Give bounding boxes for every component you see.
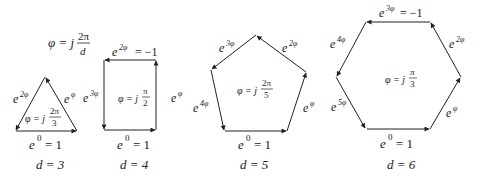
svg-text:5φ: 5φ	[338, 98, 347, 107]
phi-value: φ = j	[25, 113, 45, 124]
svg-text:e: e	[449, 37, 455, 51]
formula-denominator: d	[80, 45, 86, 57]
svg-text:2π: 2π	[262, 78, 272, 88]
svg-text:φ: φ	[453, 104, 458, 113]
phi-value: φ = j	[118, 93, 138, 104]
svg-text:e: e	[303, 101, 309, 115]
edge-label-ephi: e	[64, 92, 70, 106]
svg-text:= −1: = −1	[400, 6, 423, 20]
formula-lhs: φ = j	[48, 35, 74, 50]
svg-text:φ: φ	[178, 89, 183, 98]
svg-text:2: 2	[143, 98, 148, 108]
svg-text:e: e	[83, 91, 89, 105]
svg-text:e: e	[193, 101, 199, 115]
svg-text:2π: 2π	[50, 106, 60, 116]
svg-text:4φ: 4φ	[200, 99, 209, 108]
general-phi-formula: φ = j 2π d	[48, 30, 90, 57]
svg-text:e: e	[446, 106, 452, 120]
svg-text:2φ: 2φ	[289, 39, 298, 48]
svg-text:e: e	[117, 137, 123, 152]
formula-numerator: 2π	[78, 30, 90, 42]
svg-text:e: e	[29, 137, 35, 152]
svg-text:e: e	[171, 91, 177, 105]
svg-text:3φ: 3φ	[385, 4, 395, 13]
d-label: d = 3	[36, 157, 65, 172]
svg-text:2φ: 2φ	[20, 90, 29, 99]
svg-text:π: π	[143, 86, 148, 96]
bottom-label: = 1	[133, 137, 150, 152]
bottom-label: = 1	[396, 136, 413, 151]
pentagon-d5: e 3φ e 2φ e 4φ e φ φ = j 2π 5 e 0 = 1 d …	[193, 35, 315, 172]
svg-text:e: e	[282, 41, 288, 55]
d-label: d = 5	[240, 157, 269, 172]
svg-text:φ: φ	[71, 90, 76, 99]
svg-text:0: 0	[388, 132, 393, 142]
svg-text:e: e	[330, 37, 336, 51]
bottom-label: = 1	[45, 137, 62, 152]
bottom-label: = 1	[254, 137, 271, 152]
roots-of-unity-diagram: φ = j 2π d e 2φ e φ φ = j 2π 3 e 0 = 1 d…	[0, 0, 477, 179]
svg-text:4φ: 4φ	[337, 35, 346, 44]
svg-text:0: 0	[246, 133, 251, 143]
svg-text:2φ: 2φ	[119, 43, 128, 52]
svg-text:2φ: 2φ	[456, 35, 465, 44]
svg-text:3φ: 3φ	[225, 39, 235, 48]
svg-text:5: 5	[264, 90, 269, 100]
d-label: d = 6	[387, 157, 416, 172]
square-d4: e 2φ = −1 e 3φ e φ φ = j π 2 e 0 = 1 d =…	[83, 43, 183, 172]
svg-text:e: e	[112, 45, 118, 59]
svg-text:e: e	[379, 6, 385, 20]
svg-text:3φ: 3φ	[89, 89, 99, 98]
svg-text:e: e	[219, 41, 225, 55]
svg-text:e: e	[238, 137, 244, 152]
triangle-d3: e 2φ e φ φ = j 2π 3 e 0 = 1 d = 3	[13, 77, 77, 172]
phi-value: φ = j	[385, 74, 405, 85]
svg-text:0: 0	[37, 133, 42, 143]
phi-value: φ = j	[237, 85, 257, 96]
svg-text:3: 3	[52, 118, 57, 128]
svg-text:π: π	[410, 67, 415, 77]
svg-text:φ: φ	[310, 99, 315, 108]
hexagon-d6: e 3φ = −1 e 4φ e 2φ e 5φ e φ φ = j π 3 e…	[330, 4, 465, 172]
svg-text:3: 3	[410, 79, 415, 89]
svg-text:e: e	[380, 136, 386, 151]
d-label: d = 4	[120, 157, 149, 172]
svg-text:e: e	[331, 100, 337, 114]
svg-text:0: 0	[125, 133, 130, 143]
edge-label-e2phi: e	[13, 92, 19, 106]
svg-text:= −1: = −1	[135, 45, 158, 59]
